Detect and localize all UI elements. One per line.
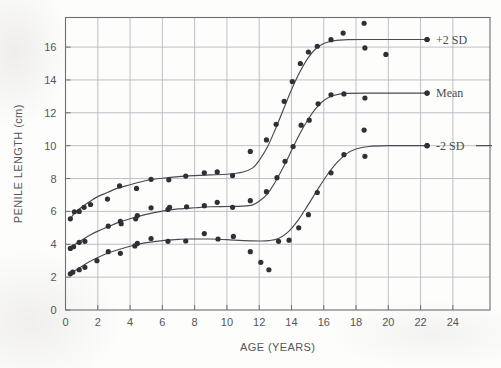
x-axis-tick-label: 18 <box>350 316 362 328</box>
data-point <box>71 244 76 249</box>
y-axis-tick-label: 2 <box>50 271 56 283</box>
data-point <box>68 216 73 221</box>
plot-frame <box>66 18 491 311</box>
y-axis-tick-label: 16 <box>44 41 56 53</box>
data-points-layer <box>68 21 430 277</box>
x-axis-tick-label: 10 <box>221 316 233 328</box>
data-point <box>165 239 170 244</box>
fitted-curves-layer <box>70 40 427 274</box>
data-point <box>70 270 75 275</box>
data-point <box>135 241 140 246</box>
data-point <box>82 239 87 244</box>
data-point <box>296 225 301 230</box>
data-point <box>166 177 171 182</box>
x-axis-tick-label: 4 <box>127 316 133 328</box>
y-axis-title: PENILE LENGTH (cm) <box>12 104 24 223</box>
x-axis-tick-label: 12 <box>253 316 265 328</box>
data-point <box>202 231 207 236</box>
y-axis-tick-label: 10 <box>44 140 56 152</box>
data-point <box>282 159 287 164</box>
data-point <box>248 198 253 203</box>
data-point <box>328 37 333 42</box>
legend-marker-dot <box>424 90 429 95</box>
x-axis-tick-label: 24 <box>447 316 459 328</box>
data-point <box>88 202 93 207</box>
x-axis-tick-label: 6 <box>159 316 165 328</box>
y-axis-tick-label: 14 <box>44 74 56 86</box>
data-point <box>316 101 321 106</box>
series-legend-layer: +2 SDMean-2 SD <box>424 33 492 153</box>
data-point <box>341 152 346 157</box>
data-point <box>264 189 269 194</box>
data-point <box>341 91 346 96</box>
data-point <box>328 170 333 175</box>
data-point <box>315 190 320 195</box>
data-point <box>183 173 188 178</box>
data-point <box>328 92 333 97</box>
data-point <box>77 209 82 214</box>
data-point <box>298 61 303 66</box>
data-point <box>248 149 253 154</box>
plot-area-border <box>66 18 491 311</box>
data-point <box>306 212 311 217</box>
data-point <box>286 238 291 243</box>
data-point <box>117 183 122 188</box>
data-point <box>362 127 367 132</box>
data-point <box>274 175 279 180</box>
legend-label-2-sd: +2 SD <box>436 33 467 47</box>
data-point <box>258 260 263 265</box>
data-point <box>231 234 236 239</box>
data-point <box>82 265 87 270</box>
data-point <box>248 249 253 254</box>
data-point <box>202 203 207 208</box>
legend-marker-dot <box>424 37 429 42</box>
fitted-curve-2-sd <box>70 40 427 219</box>
data-point <box>215 236 220 241</box>
data-point <box>362 95 367 100</box>
data-point <box>134 186 139 191</box>
data-point <box>306 49 311 54</box>
legend-marker-dot <box>424 143 429 148</box>
data-point <box>119 221 124 226</box>
x-axis-tick-label: 8 <box>192 316 198 328</box>
data-point <box>290 79 295 84</box>
data-point <box>77 240 82 245</box>
x-axis-tick-label: 14 <box>285 316 297 328</box>
data-point <box>274 122 279 127</box>
data-point <box>148 177 153 182</box>
data-point <box>77 267 82 272</box>
data-point <box>184 204 189 209</box>
data-point <box>148 205 153 210</box>
y-axis-tick-label: 0 <box>50 304 56 316</box>
data-point <box>307 118 312 123</box>
data-point <box>383 52 388 57</box>
data-point <box>183 238 188 243</box>
data-point <box>282 99 287 104</box>
data-point <box>341 31 346 36</box>
fitted-curve-2-sd <box>70 146 427 274</box>
axis-labels-layer: 0246810121416182022240246810121416AGE (Y… <box>12 41 459 353</box>
data-point <box>105 196 110 201</box>
data-point <box>81 205 86 210</box>
x-axis-tick-label: 2 <box>95 316 101 328</box>
data-point <box>230 173 235 178</box>
data-point <box>230 205 235 210</box>
data-point <box>106 224 111 229</box>
data-point <box>167 205 172 210</box>
data-point <box>94 258 99 263</box>
y-axis-tick-label: 8 <box>50 173 56 185</box>
data-point <box>290 144 295 149</box>
data-point <box>106 249 111 254</box>
data-point <box>215 200 220 205</box>
data-point <box>72 209 77 214</box>
penile-length-growth-chart-figure: +2 SDMean-2 SD 0246810121416182022240246… <box>0 0 501 368</box>
y-axis-tick-label: 12 <box>44 107 56 119</box>
x-axis-tick-label: 0 <box>62 316 68 328</box>
chart-canvas: +2 SDMean-2 SD 0246810121416182022240246… <box>0 0 501 368</box>
data-point <box>276 239 281 244</box>
data-point <box>135 213 140 218</box>
data-point <box>362 21 367 26</box>
data-point <box>215 169 220 174</box>
y-axis-tick-label: 4 <box>50 238 56 250</box>
data-point <box>202 170 207 175</box>
